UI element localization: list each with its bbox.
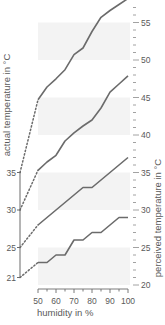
dotted-connector (20, 263, 38, 278)
right-tick-label: 25 (141, 243, 151, 253)
shaded-bands (38, 23, 130, 286)
dotted-connector (20, 170, 38, 210)
x-axis-title: humidity in % (37, 307, 94, 318)
shaded-band (38, 23, 130, 61)
right-tick-label: 45 (141, 93, 151, 103)
left-tick-label: 21 (7, 273, 17, 283)
right-tick-label: 50 (141, 55, 151, 65)
right-tick-label: 55 (141, 18, 151, 28)
left-axis-title: actual temperature in °C (1, 54, 12, 157)
x-axis-humidity: 5060708090100 (33, 289, 135, 306)
x-tick-label: 100 (121, 296, 135, 306)
shaded-band (38, 248, 130, 286)
heat-index-chart: 2025303540455055 21253035 5060708090100 … (0, 0, 165, 325)
left-tick-label: 25 (7, 243, 17, 253)
left-axis-actual-temperature: 21253035 (7, 168, 21, 283)
x-tick-label: 70 (69, 296, 79, 306)
right-axis-perceived-temperature: 2025303540455055 (133, 8, 151, 291)
x-tick-label: 60 (51, 296, 61, 306)
x-tick-label: 90 (105, 296, 115, 306)
right-axis-title: perceived temperature in °C (152, 159, 163, 278)
shaded-band (38, 98, 130, 136)
left-tick-label: 30 (7, 205, 17, 215)
right-tick-label: 35 (141, 168, 151, 178)
dotted-connector (20, 100, 38, 173)
right-tick-label: 20 (141, 280, 151, 290)
dotted-connector (20, 225, 38, 248)
dotted-connectors (20, 100, 38, 278)
right-tick-label: 40 (141, 130, 151, 140)
x-tick-label: 80 (87, 296, 97, 306)
x-tick-label: 50 (33, 296, 43, 306)
left-tick-label: 35 (7, 168, 17, 178)
right-tick-label: 30 (141, 205, 151, 215)
shaded-band (38, 173, 130, 211)
